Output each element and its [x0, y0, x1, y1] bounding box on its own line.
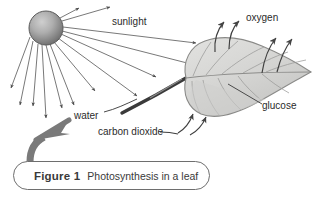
label-oxygen: oxygen [246, 12, 278, 23]
sun-ray [11, 37, 30, 88]
label-sunlight: sunlight [112, 16, 146, 27]
carbon-dioxide-arrows-group [160, 114, 206, 135]
figure-title: Photosynthesis in a leaf [87, 170, 198, 182]
figure-number: Figure 1 [34, 170, 80, 182]
sun-ray [20, 41, 33, 105]
sun-ray [54, 42, 95, 91]
sun-ray [58, 38, 137, 96]
figure-caption-text: Figure 1 Photosynthesis in a leaf [14, 162, 209, 189]
water-leader-line [104, 99, 137, 112]
figure-caption-pill: Figure 1 Photosynthesis in a leaf [13, 161, 210, 190]
sun-ray [33, 44, 38, 106]
carbon-dioxide-arrow [190, 117, 206, 135]
sun-ray [62, 31, 191, 64]
sun-icon [29, 11, 63, 45]
sun-ray [63, 27, 196, 43]
carbon-dioxide-arrow [178, 114, 193, 133]
label-carbon-dioxide: carbon dioxide [98, 126, 163, 137]
emphasis-arrow [30, 120, 70, 162]
leaf-stem [122, 78, 186, 113]
figure-container: sunlight oxygen glucose water carbon dio… [0, 0, 321, 208]
label-glucose: glucose [262, 100, 296, 111]
sun-ray [61, 34, 156, 77]
label-water: water [74, 110, 98, 121]
sun-ray [42, 45, 46, 118]
sun-ray [62, 7, 110, 21]
